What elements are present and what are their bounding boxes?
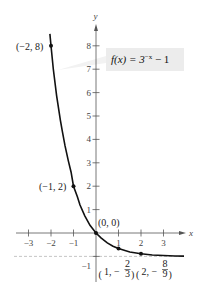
svg-text:6: 6 [87,88,92,98]
svg-text:−3: −3 [24,238,34,248]
svg-text:4: 4 [87,134,92,144]
svg-text:1: 1 [116,238,121,248]
svg-text:1, −: 1, − [104,266,120,277]
point-label-2-neg8over9: ( 2, − 8 9 ) [136,258,172,281]
label-pointer [58,56,106,70]
svg-text:3: 3 [87,158,92,168]
svg-text:): ) [169,269,172,281]
svg-text:−1: −1 [81,261,91,271]
function-graph: f(x) = 3−x − 1 x y −3 −2 −1 1 2 3 [0,0,203,296]
svg-text:(: ( [136,269,140,281]
svg-text:2: 2 [139,238,144,248]
x-tick-labels: −3 −2 −1 1 2 3 [24,238,167,248]
function-label: f(x) = 3−x − 1 [111,53,169,66]
point-label-0-0: (0, 0) [98,217,120,229]
svg-text:−2: −2 [46,238,56,248]
point-label-neg2-8: (−2, 8) [16,41,43,53]
svg-text:2, −: 2, − [142,266,158,277]
svg-text:5: 5 [87,111,92,121]
x-axis-arrow-icon [179,231,186,235]
svg-text:(: ( [99,269,103,281]
svg-text:8: 8 [87,41,92,51]
svg-text:1: 1 [87,205,92,215]
svg-text:3: 3 [161,238,166,248]
svg-text:3: 3 [125,268,130,279]
svg-text:): ) [131,269,134,281]
svg-text:2: 2 [87,181,92,191]
point-label-1-neg2over3: ( 1, − 2 3 ) [99,258,135,281]
y-tick-labels: 1 2 3 4 5 6 7 8 −1 [81,41,91,271]
x-axis-label: x [188,228,193,238]
svg-text:−1: −1 [69,238,79,248]
y-axis-arrow-icon [94,24,98,31]
svg-text:7: 7 [87,64,92,74]
point-label-neg1-2: (−1, 2) [39,181,66,193]
y-axis-label: y [93,11,98,21]
svg-text:9: 9 [163,268,168,279]
